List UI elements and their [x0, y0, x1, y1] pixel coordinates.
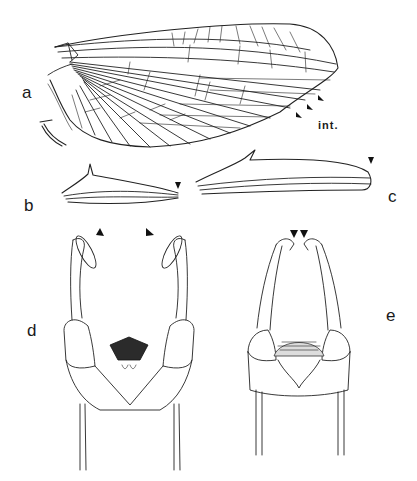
- panel-c-drawing: [196, 150, 374, 194]
- panel-b-drawing: [62, 164, 181, 203]
- arrowhead-e-left: [290, 230, 298, 238]
- arrowhead-d-left: [96, 228, 104, 236]
- arrowhead-e-right: [300, 230, 308, 238]
- figure-plate: a int. b c d e: [0, 0, 417, 481]
- panel-d-drawing: [64, 233, 194, 470]
- annotation-int: int.: [318, 120, 339, 131]
- arrowhead-d-right: [146, 228, 154, 236]
- panel-label-c: c: [388, 188, 397, 205]
- panel-label-b: b: [24, 197, 33, 214]
- panel-label-a: a: [22, 84, 31, 101]
- intercalary-arrowheads: [296, 95, 324, 118]
- forewing-drawing: [40, 24, 338, 147]
- line-drawing: [0, 0, 417, 481]
- panel-label-e: e: [386, 307, 395, 324]
- panel-label-d: d: [27, 322, 36, 339]
- panel-e-drawing: [248, 239, 350, 455]
